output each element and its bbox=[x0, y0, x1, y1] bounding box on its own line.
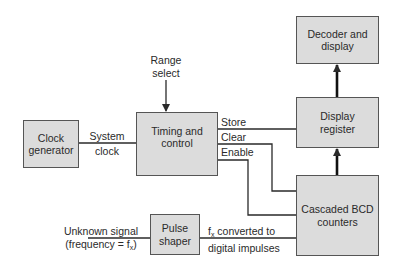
clear-label: Clear bbox=[221, 131, 246, 144]
enable-label: Enable bbox=[221, 146, 254, 159]
enable-wire bbox=[217, 160, 296, 215]
timing-control-line2: control bbox=[151, 137, 203, 150]
display-register-line1: Display bbox=[320, 110, 355, 123]
decoder-display-line1: Decoder and bbox=[307, 28, 367, 41]
pulse-shaper-line2: shaper bbox=[159, 235, 191, 248]
fx-converted-label: fx converted to digital impulses bbox=[208, 225, 280, 254]
unknown-signal-label: Unknown signal (frequency = fx) bbox=[56, 225, 146, 254]
decoder-display-line2: display bbox=[307, 40, 367, 53]
system-clock-label: System clock bbox=[85, 130, 129, 157]
clock-generator-line1: Clock bbox=[29, 132, 74, 145]
display-register-line2: register bbox=[320, 123, 355, 136]
clock-generator-line2: generator bbox=[29, 144, 74, 157]
clock-generator-block: Clockgenerator bbox=[23, 120, 79, 168]
display-register-block: Displayregister bbox=[296, 97, 379, 148]
bcd-counters-line1: Cascaded BCD bbox=[301, 203, 373, 216]
range-select-label: Range select bbox=[146, 54, 186, 79]
bcd-counters-block: Cascaded BCDcounters bbox=[296, 175, 379, 256]
pulse-shaper-block: Pulseshaper bbox=[150, 214, 200, 255]
store-label: Store bbox=[221, 116, 246, 129]
decoder-display-block: Decoder anddisplay bbox=[296, 16, 379, 64]
timing-control-block: Timing andcontrol bbox=[136, 112, 218, 176]
pulse-shaper-line1: Pulse bbox=[159, 222, 191, 235]
bcd-counters-line2: counters bbox=[301, 216, 373, 229]
timing-control-line1: Timing and bbox=[151, 125, 203, 138]
